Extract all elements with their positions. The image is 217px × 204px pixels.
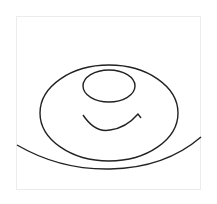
inner-oval [83, 70, 135, 102]
bottom-sweep-arc [17, 137, 201, 169]
sketch-drawing [0, 0, 217, 204]
smile-arc [83, 114, 141, 130]
outer-ellipse [40, 65, 178, 161]
